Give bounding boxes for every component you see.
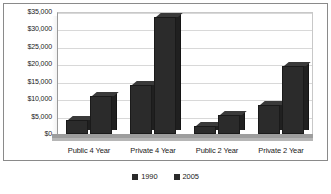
bar-side-face bbox=[176, 13, 181, 130]
legend-swatch-icon bbox=[174, 174, 180, 180]
tuition-cost-bar-chart: $0$5,000$10,000$15,000$20,000$25,000$30,… bbox=[0, 0, 331, 194]
bar-group bbox=[57, 12, 121, 134]
bar-group bbox=[185, 12, 249, 134]
legend-swatch-icon bbox=[132, 174, 138, 180]
y-axis-tick-label: $25,000 bbox=[4, 43, 52, 51]
y-axis-tick-label: $30,000 bbox=[4, 25, 52, 33]
bar-group bbox=[121, 12, 185, 134]
legend-item: 2005 bbox=[174, 172, 199, 181]
bar-face bbox=[194, 126, 216, 134]
bar-face bbox=[130, 85, 152, 134]
bar-face bbox=[154, 17, 176, 134]
bar-2005 bbox=[154, 17, 176, 134]
x-axis-category-labels: Public 4 YearPrivate 4 YearPublic 2 Year… bbox=[57, 146, 318, 158]
y-axis-tick-label: $0 bbox=[4, 130, 52, 138]
x-axis-category-label: Private 4 Year bbox=[121, 146, 185, 155]
y-axis-tick-labels: $0$5,000$10,000$15,000$20,000$25,000$30,… bbox=[4, 8, 52, 138]
bar-1990 bbox=[130, 85, 152, 134]
x-axis-category-label: Public 2 Year bbox=[185, 146, 249, 155]
bar-group bbox=[249, 12, 313, 134]
bar-face bbox=[258, 105, 280, 134]
bar-series-container bbox=[57, 12, 313, 134]
bar-1990 bbox=[258, 105, 280, 134]
bar-side-face bbox=[112, 92, 117, 130]
y-axis-tick-label: $15,000 bbox=[4, 78, 52, 86]
bar-top-face bbox=[92, 92, 119, 96]
legend-item: 1990 bbox=[132, 172, 157, 181]
y-axis-tick-label: $35,000 bbox=[4, 8, 52, 16]
bar-2005 bbox=[218, 115, 240, 134]
bar-top-face bbox=[220, 111, 247, 115]
y-axis-tick-label: $10,000 bbox=[4, 95, 52, 103]
legend-label: 1990 bbox=[141, 172, 157, 181]
chart-legend: 19902005 bbox=[0, 172, 331, 181]
bar-2005 bbox=[282, 66, 304, 134]
legend-label: 2005 bbox=[183, 172, 199, 181]
bar-face bbox=[282, 66, 304, 134]
bar-side-face bbox=[304, 62, 309, 130]
bar-2005 bbox=[90, 96, 112, 134]
y-axis-tick-label: $20,000 bbox=[4, 60, 52, 68]
bar-1990 bbox=[66, 120, 88, 134]
chart-floor-front bbox=[52, 138, 313, 141]
bar-face bbox=[90, 96, 112, 134]
x-axis-category-label: Public 4 Year bbox=[57, 146, 121, 155]
x-axis-category-label: Private 2 Year bbox=[249, 146, 313, 155]
bar-face bbox=[66, 120, 88, 134]
y-axis-tick-label: $5,000 bbox=[4, 113, 52, 121]
bar-face bbox=[218, 115, 240, 134]
bar-1990 bbox=[194, 126, 216, 134]
